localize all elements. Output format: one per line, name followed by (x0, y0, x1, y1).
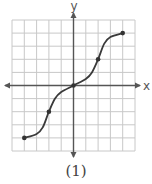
x-axis-arrow-right-icon (135, 83, 141, 89)
marked-point (22, 136, 27, 141)
graph-figure: x y (0, 0, 152, 184)
y-axis-arrow-down-icon (71, 152, 77, 158)
x-axis-arrow-left-icon (4, 83, 10, 89)
marked-point (71, 83, 76, 88)
axes: x y (4, 0, 150, 158)
x-axis-label: x (143, 79, 150, 93)
marked-point (96, 57, 101, 62)
figure-caption: (1) (0, 162, 152, 180)
marked-point (47, 109, 52, 114)
marked-point (120, 31, 125, 36)
y-axis-label: y (71, 0, 78, 13)
